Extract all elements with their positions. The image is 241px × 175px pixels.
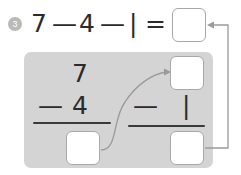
equation-equals-sign: = [145,9,166,39]
equation-minus-sign-first: — [52,9,77,39]
left-problem-rule [33,122,111,124]
right-problem-rule [128,125,205,127]
equation-minus-sign-second: — [100,9,125,39]
right-problem-minuend-box[interactable] [170,56,204,90]
equation-minuend: 7 [31,9,47,39]
right-problem-minus-sign: — [133,92,158,120]
equation-subtrahend-second: | [129,9,137,39]
right-problem-difference-box[interactable] [170,131,204,165]
elbow-arrow-head [207,21,214,28]
equation-subtrahend-first: 4 [79,9,95,39]
right-problem-subtrahend: | [182,92,190,120]
left-problem-minus-sign: — [38,92,63,120]
problem-number-badge: 3 [8,17,22,31]
left-problem-difference-box[interactable] [66,131,100,165]
left-problem-subtrahend: 4 [72,92,88,120]
left-problem-minuend: 7 [72,60,88,88]
worksheet-exercise: 3 7 — 4 — | = 7 — 4 — | [0,0,241,175]
equation-answer-box[interactable] [172,8,206,42]
